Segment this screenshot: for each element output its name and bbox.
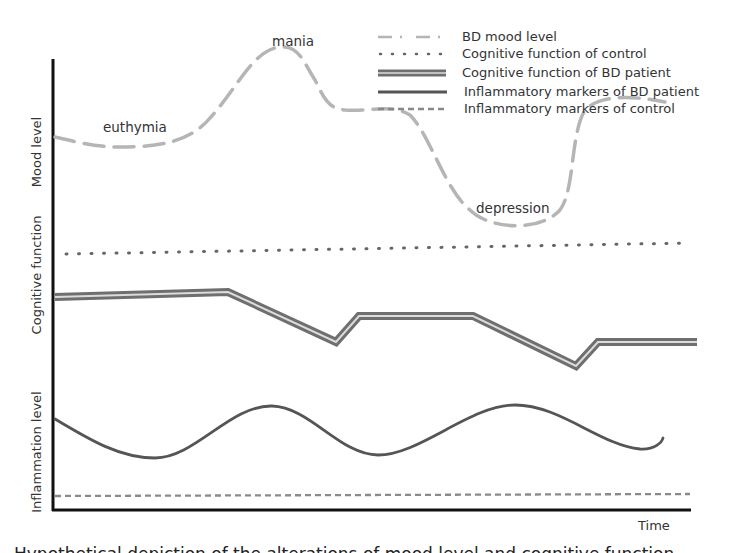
legend-item-cognitive-control: Cognitive function of control — [380, 46, 647, 61]
y-label-mood: Mood level — [29, 117, 44, 187]
legend-label: Inflammatory markers of BD patient — [464, 84, 699, 99]
legend-item-inflammation-bd: Inflammatory markers of BD patient — [378, 84, 699, 99]
series-cognitive-control — [66, 243, 690, 254]
legend: BD mood level Cognitive function of cont… — [378, 29, 699, 116]
legend-label: Inflammatory markers of control — [464, 101, 675, 116]
series-inflammation-bd — [55, 405, 663, 458]
annotation-mania: mania — [272, 33, 314, 49]
diagram-canvas: Mood level Cognitive function Inflammati… — [0, 0, 735, 553]
y-label-inflammation: Inflammation level — [29, 391, 44, 512]
legend-item-bd-mood: BD mood level — [378, 29, 557, 44]
legend-label: Cognitive function of BD patient — [462, 65, 671, 80]
legend-item-cognitive-bd: Cognitive function of BD patient — [378, 65, 671, 80]
series-cognitive-bd — [55, 292, 697, 366]
legend-label: Cognitive function of control — [462, 46, 647, 61]
annotation-euthymia: euthymia — [103, 119, 167, 135]
annotation-depression: depression — [476, 200, 550, 216]
x-label-time: Time — [637, 518, 670, 533]
y-label-cognitive: Cognitive function — [29, 216, 44, 335]
legend-label: BD mood level — [462, 29, 557, 44]
series-inflammation-control — [55, 494, 690, 496]
legend-item-inflammation-control: Inflammatory markers of control — [378, 101, 675, 116]
figure-caption: Hypothetical depiction of the alteration… — [0, 535, 735, 553]
caption-text: Hypothetical depiction of the alteration… — [0, 541, 735, 553]
